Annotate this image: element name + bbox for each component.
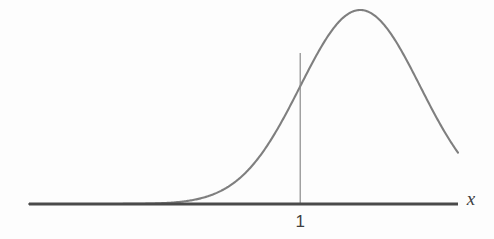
normal-curve-figure: 1 x xyxy=(0,0,494,239)
x-tick-label-1: 1 xyxy=(295,212,304,231)
x-axis-name-label: x xyxy=(466,188,476,209)
bell-curve-chart: 1 x xyxy=(0,0,494,239)
